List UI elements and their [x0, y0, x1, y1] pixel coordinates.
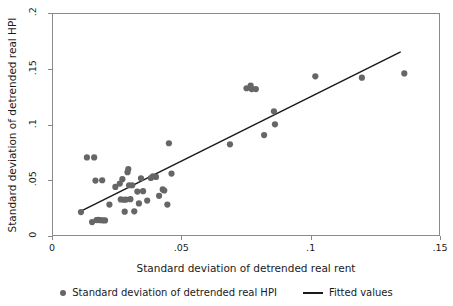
y-tick-mark	[48, 69, 52, 70]
legend-line-icon	[303, 292, 323, 294]
y-tick-label: .15	[28, 57, 38, 79]
legend-label-fitted: Fitted values	[329, 287, 393, 298]
x-tick-mark	[181, 236, 182, 240]
x-axis-title: Standard deviation of detrended real ren…	[52, 262, 440, 274]
y-tick-label: .2	[28, 1, 38, 23]
x-tick-label: .05	[161, 243, 201, 253]
legend-dot-icon	[60, 290, 66, 296]
scatter-plot-figure: Standard deviation of detrended real HPI…	[0, 0, 453, 306]
x-tick-label: .15	[420, 243, 453, 253]
y-tick-mark	[48, 13, 52, 14]
x-tick-label: 0	[32, 243, 72, 253]
x-tick-mark	[52, 236, 53, 240]
x-tick-label: .1	[291, 243, 331, 253]
y-tick-mark	[48, 125, 52, 126]
y-tick-mark	[48, 180, 52, 181]
x-tick-mark	[311, 236, 312, 240]
y-axis-title-text: Standard deviation of detrended real HPI	[6, 17, 18, 232]
legend-label-scatter: Standard deviation of detrended real HPI	[72, 287, 277, 298]
legend-entry-scatter: Standard deviation of detrended real HPI	[60, 287, 277, 298]
y-axis-title: Standard deviation of detrended real HPI	[4, 13, 20, 236]
legend-entry-fitted: Fitted values	[303, 287, 393, 298]
y-tick-label: .1	[28, 112, 38, 134]
x-tick-mark	[440, 236, 441, 240]
plot-area	[52, 13, 440, 236]
chart-legend: Standard deviation of detrended real HPI…	[0, 287, 453, 298]
y-tick-label: .05	[28, 168, 38, 190]
